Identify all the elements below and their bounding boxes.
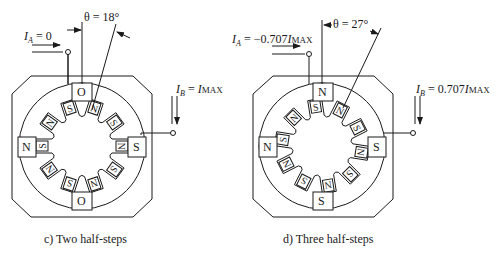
caption-d: d) Three half-steps (283, 232, 373, 247)
ia-rhs-subscript: MAX (291, 35, 312, 45)
ia-label-d: IA = −0.707IMAX (232, 32, 312, 48)
theta-label-c: θ = 18° (84, 10, 119, 25)
rotor-outline (35, 99, 129, 193)
rotor-tooth-letter: N (43, 117, 56, 129)
terminal-a (307, 52, 312, 57)
pole-letter-d-top: N (318, 85, 327, 100)
rotor-angle-line (343, 28, 381, 108)
ib-label-d: IB = 0.707IMAX (416, 82, 490, 98)
ia-label-c: IA = 0 (24, 29, 52, 45)
terminal-b (171, 131, 176, 136)
panel-c-diagram: NSNSNSNSNS (12, 22, 177, 217)
theta-label-d: θ = 27° (333, 17, 368, 32)
rotor-tooth-letter: S (37, 143, 48, 149)
panel-d-diagram: NSNSNSNSNS (253, 20, 420, 217)
theta-value: θ = 27° (333, 17, 368, 31)
ib-label-c: IB = IMAX (176, 82, 223, 98)
ib-value: = 0.707 (425, 82, 465, 96)
rotor: NSNSNSNSNS (275, 99, 370, 194)
ib-rhs-subscript: MAX (469, 85, 490, 95)
rotor-tooth-letter: N (43, 163, 56, 175)
ib-rhs-subscript: MAX (202, 85, 223, 95)
ia-value: = 0 (33, 29, 52, 43)
pole-letter-c-left: N (22, 140, 31, 155)
rotor-tooth-letter: N (288, 112, 301, 125)
ib-equals: = (185, 82, 198, 96)
terminal-a (66, 50, 71, 55)
pole-letter-c-top: O (77, 85, 86, 100)
rotor-angle-line (92, 24, 116, 110)
rotor-outline (275, 99, 370, 194)
pole-letter-c-bottom: O (77, 194, 86, 209)
ia-value: = −0.707 (241, 32, 288, 46)
caption-c: c) Two half-steps (44, 232, 127, 247)
pole-letter-c-right: S (133, 140, 140, 155)
pole-letter-d-right: S (373, 140, 380, 155)
terminal-b (411, 131, 416, 136)
pole-letter-d-bottom: S (318, 194, 325, 209)
theta-value: θ = 18° (84, 10, 119, 24)
rotor: NSNSNSNSNS (35, 99, 129, 193)
rotor-tooth-letter: N (116, 142, 127, 149)
pole-letter-d-left: N (263, 140, 272, 155)
